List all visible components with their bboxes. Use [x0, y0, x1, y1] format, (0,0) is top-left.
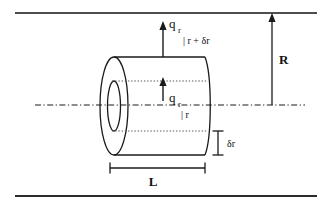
inner-ellipse-bore: [108, 81, 121, 131]
length-label: L: [149, 174, 158, 189]
outer-ellipse-face: [100, 57, 128, 155]
heat-flux-arrow-outer-head: [159, 21, 166, 30]
flux-inner-subscript: r: [178, 99, 181, 109]
flux-outer-subscript: r: [178, 25, 181, 35]
flux-inner-evaluation: | r: [181, 109, 190, 120]
thickness-label: δr: [227, 138, 236, 149]
pipe-control-volume-figure: q r | r + δr q r | r R δr L: [0, 0, 332, 203]
flux-outer-evaluation: | r + δr: [183, 35, 210, 46]
flux-outer-symbol: q: [169, 16, 176, 31]
flux-inner-symbol: q: [169, 90, 176, 105]
diagram-canvas: q r | r + δr q r | r R δr L: [0, 0, 332, 203]
radius-label: R: [279, 52, 289, 67]
radius-dimension-arrowhead: [268, 13, 275, 22]
shell-far-end-arc: [205, 57, 210, 155]
